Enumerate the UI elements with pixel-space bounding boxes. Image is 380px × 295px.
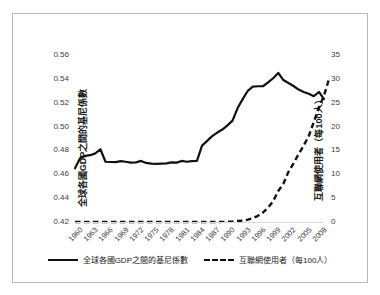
left-tick-label: 0.50 — [53, 123, 69, 131]
legend-item[interactable]: 全球各國GDP之間的基尼係數 — [48, 254, 188, 265]
x-tick-label: 1990 — [220, 226, 237, 243]
right-tick-label: 35 — [331, 51, 340, 59]
x-tick-label: 2002 — [281, 226, 298, 243]
right-tick-label: 0 — [331, 218, 335, 226]
right-tick-label: 5 — [331, 194, 335, 202]
left-tick-label: 0.54 — [53, 75, 69, 83]
series-line-gini — [75, 73, 324, 168]
chart-legend: 全球各國GDP之間的基尼係數互聯網使用者（每100人） — [13, 254, 367, 265]
x-tick-label: 1981 — [174, 226, 191, 243]
legend-label: 全球各國GDP之間的基尼係數 — [83, 254, 188, 265]
x-tick-label: 2008 — [311, 226, 328, 243]
right-tick-label: 25 — [331, 99, 340, 107]
left-tick-label: 0.44 — [53, 194, 69, 202]
right-tick-label: 20 — [331, 123, 340, 131]
chart-figure: 全球各國GDP之間的基尼係數 互聯網使用者（每100人） 0.420.440.4… — [12, 13, 368, 283]
right-tick-label: 10 — [331, 170, 340, 178]
x-tick-label: 1966 — [98, 226, 115, 243]
left-tick-label: 0.42 — [53, 218, 69, 226]
right-tick-label: 30 — [331, 75, 340, 83]
left-tick-label: 0.46 — [53, 170, 69, 178]
left-tick-label: 0.48 — [53, 146, 69, 154]
legend-dashed-swatch-icon — [204, 259, 234, 261]
plot-area: 0.420.440.460.480.500.520.540.56 0510152… — [75, 55, 324, 222]
x-tick-label: 1969 — [113, 226, 130, 243]
series-lines — [75, 55, 324, 222]
x-tick-label: 2005 — [296, 226, 313, 243]
legend-item[interactable]: 互聯網使用者（每100人） — [204, 254, 332, 265]
legend-solid-swatch-icon — [48, 259, 78, 261]
baseline-gridline — [75, 222, 324, 223]
left-tick-label: 0.56 — [53, 51, 69, 59]
left-tick-label: 0.52 — [53, 99, 69, 107]
x-tick-label: 1978 — [159, 226, 176, 243]
x-tick-label: 1993 — [235, 226, 252, 243]
legend-label: 互聯網使用者（每100人） — [239, 254, 332, 265]
right-tick-label: 15 — [331, 146, 340, 154]
series-line-internet — [75, 79, 329, 222]
